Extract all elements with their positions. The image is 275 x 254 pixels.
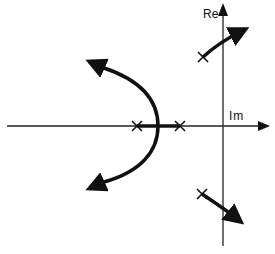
vertical-axis-label: Re <box>203 8 218 20</box>
vertical-axis-arrow-icon <box>218 3 228 16</box>
complex-pole-upper-cross-icon <box>198 52 208 62</box>
horizontal-axis-arrow-icon <box>258 121 270 131</box>
root-locus-diagram: Re Im <box>0 0 275 254</box>
locus-arrow-upper-left-icon <box>95 64 104 68</box>
complex-pole-lower-cross-icon <box>197 189 207 199</box>
locus-branch-upper-complex <box>203 32 240 57</box>
locus-branch-breakaway-lower <box>104 126 158 182</box>
horizontal-axis-label: Im <box>229 110 244 122</box>
locus-branch-lower-complex <box>202 194 236 218</box>
locus-arrow-lower-left-icon <box>95 182 104 186</box>
locus-branch-breakaway-upper <box>104 68 158 126</box>
diagram-svg <box>0 0 275 254</box>
